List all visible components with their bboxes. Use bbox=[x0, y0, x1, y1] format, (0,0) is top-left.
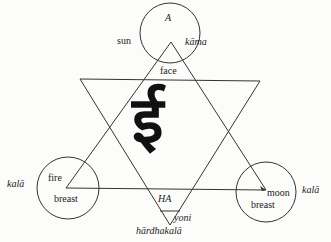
devanagari-i-glyph: ई bbox=[132, 88, 163, 152]
label-kama: kāma bbox=[185, 37, 207, 47]
label-a: A bbox=[165, 13, 171, 23]
label-kala-left: kalā bbox=[7, 179, 24, 189]
label-face: face bbox=[160, 66, 177, 76]
label-kala-right: kalā bbox=[302, 185, 319, 195]
label-yoni: yoni bbox=[174, 213, 191, 223]
label-sun: sun bbox=[117, 36, 131, 46]
label-fire: fire bbox=[48, 173, 62, 183]
label-breast-left: breast bbox=[54, 194, 78, 204]
diagram-lines bbox=[0, 0, 331, 242]
hexagram-diagram: A sun kāma face ई kalā fire breast moon … bbox=[0, 0, 331, 242]
label-hardhakala: hārdhakalā bbox=[136, 226, 182, 236]
label-ha: HA bbox=[158, 194, 171, 204]
label-moon: moon bbox=[267, 188, 290, 198]
label-breast-right: breast bbox=[251, 200, 275, 210]
